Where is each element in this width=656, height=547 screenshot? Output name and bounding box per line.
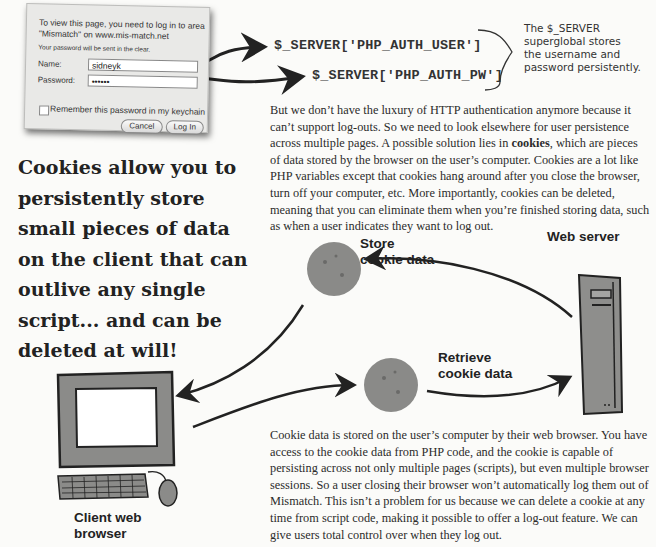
intro-paragraph: But we don’t have the luxury of HTTP aut… bbox=[270, 102, 650, 235]
name-label: Name: bbox=[38, 59, 62, 68]
code-php-auth-pw: $_SERVER['PHP_AUTH_PW'] bbox=[312, 68, 503, 83]
password-label: Password: bbox=[38, 75, 76, 85]
cookie-explanation-paragraph: Cookie data is stored on the user’s comp… bbox=[270, 427, 654, 543]
web-server-label: Web server bbox=[547, 229, 620, 245]
store-label-line: cookie data bbox=[360, 252, 434, 268]
annotation-line: superglobal stores bbox=[524, 35, 656, 48]
annotation-line: the username and bbox=[524, 48, 656, 61]
retrieve-label: Retrieve cookie data bbox=[438, 350, 512, 382]
annotation-line: The $_SERVER bbox=[524, 22, 656, 35]
login-button[interactable]: Log In bbox=[166, 120, 204, 135]
password-field[interactable]: •••••• bbox=[88, 74, 198, 88]
client-browser-label: Client web browser bbox=[74, 510, 142, 542]
store-label: Store cookie data bbox=[360, 236, 434, 268]
retrieve-label-line: Retrieve bbox=[438, 350, 512, 366]
dialog-warning: Your password will be sent in the clear. bbox=[38, 43, 150, 52]
cookies-keyword: cookies bbox=[511, 136, 549, 150]
client-label-line: Client web bbox=[74, 510, 142, 526]
cookie-icon-store bbox=[307, 242, 361, 296]
client-label-line: browser bbox=[74, 526, 142, 542]
code-php-auth-user: $_SERVER['PHP_AUTH_USER'] bbox=[274, 38, 482, 53]
cancel-button[interactable]: Cancel bbox=[121, 119, 163, 134]
remember-checkbox[interactable] bbox=[39, 105, 49, 115]
server-icon bbox=[579, 275, 622, 414]
server-annotation: The $_SERVER superglobal stores the user… bbox=[524, 22, 656, 74]
retrieve-label-line: cookie data bbox=[438, 366, 512, 382]
login-dialog: To view this page, you need to log in to… bbox=[24, 3, 211, 133]
store-label-line: Store bbox=[360, 236, 434, 252]
annotation-line: password persistently. bbox=[524, 61, 656, 74]
remember-label: Remember this password in my keychain bbox=[50, 104, 205, 117]
paragraph-text: , which are pieces of data stored by the… bbox=[270, 136, 649, 233]
cookie-icon-retrieve bbox=[364, 358, 418, 412]
dialog-message: To view this page, you need to log in to… bbox=[39, 17, 209, 43]
computer-icon bbox=[58, 372, 177, 506]
name-field[interactable]: sidneyk bbox=[88, 58, 198, 72]
cookies-callout: Cookies allow you to persistently store … bbox=[18, 152, 258, 366]
